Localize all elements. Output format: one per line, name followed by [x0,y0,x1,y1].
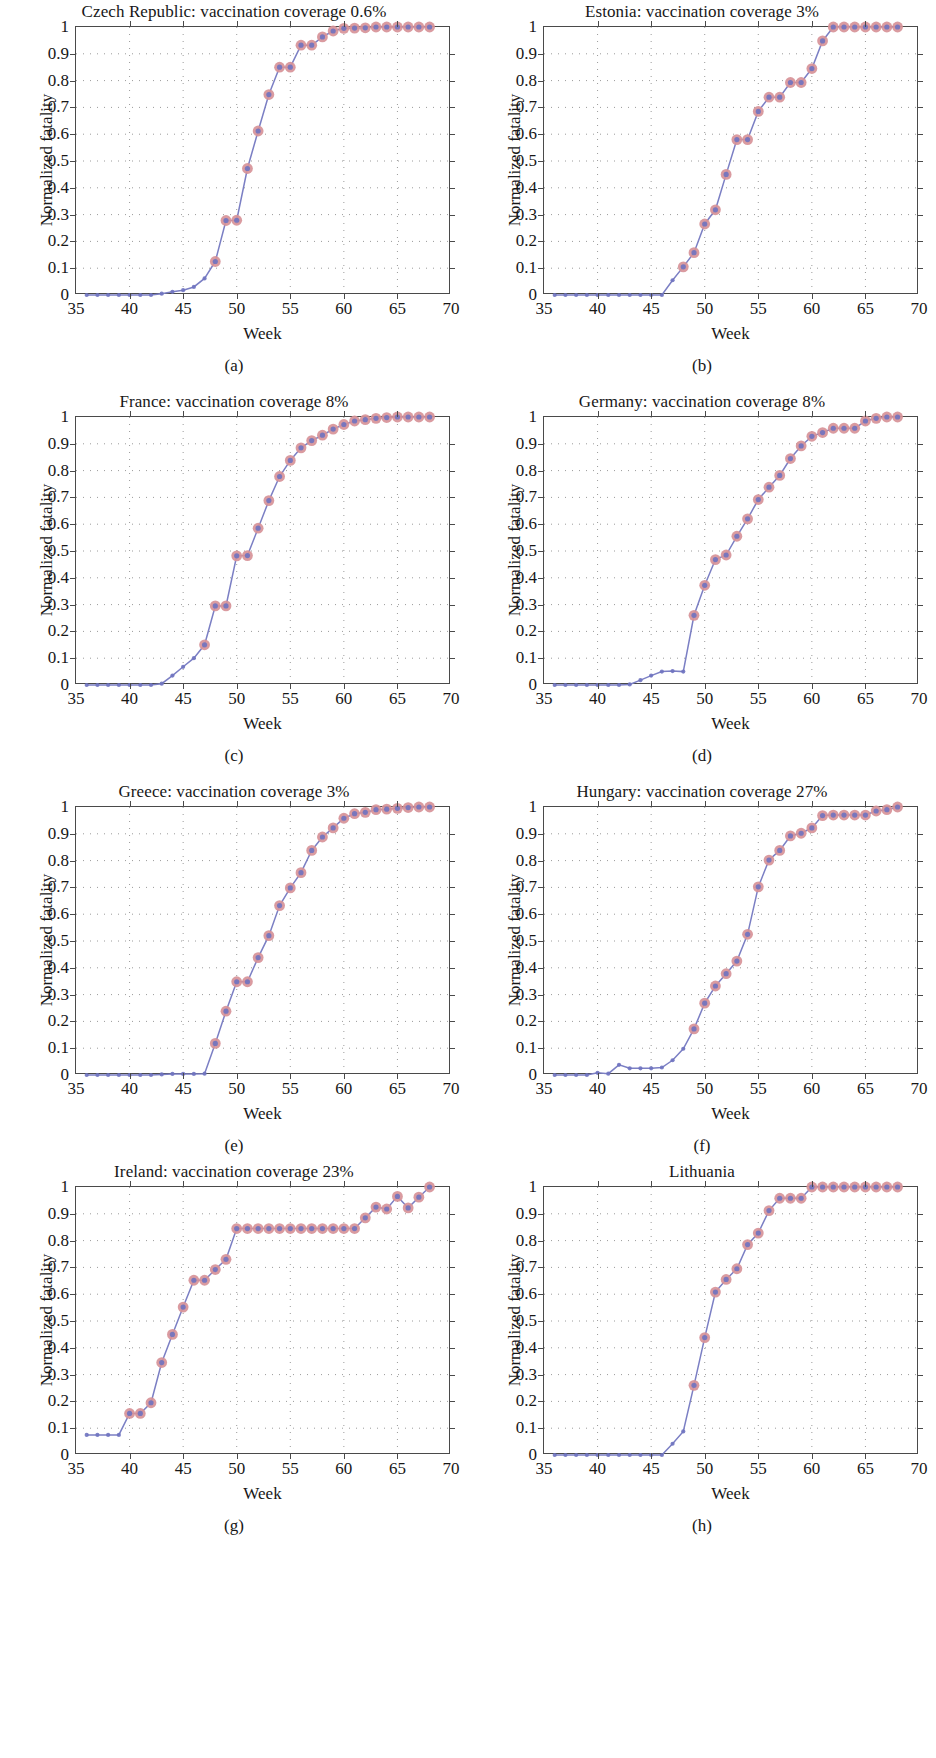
data-marker-dot [585,1073,589,1077]
y-axis-tick-label: 1 [61,407,70,427]
data-marker-dot [574,1453,578,1457]
x-axis-tick-mark-top [758,411,759,417]
data-marker-dot [831,812,836,817]
y-axis-tick-mark [70,1021,76,1022]
data-marker-dot [681,264,686,269]
x-axis-tick-mark-top [130,1181,131,1187]
y-axis-tick-mark [538,1375,544,1376]
y-axis-tick-label: 0.4 [516,178,537,198]
data-marker-dot [266,498,271,503]
y-axis-tick-mark-right [917,1348,923,1349]
y-axis-tick-mark-right [917,215,923,216]
y-axis-tick-mark-right [917,968,923,969]
data-marker-dot [298,1226,303,1231]
data-marker-dot [170,1332,175,1337]
data-marker-dot [341,422,346,427]
y-axis-tick-mark [538,1401,544,1402]
data-marker-dot [160,292,164,296]
y-axis-tick-label: 0.2 [48,231,69,251]
y-axis-tick-mark [538,834,544,835]
x-axis-tick-mark [130,1453,131,1459]
y-axis-tick-mark-right [917,1428,923,1429]
x-axis-tick-mark-top [598,21,599,27]
data-marker-dot [895,1184,900,1189]
data-marker-dot [416,804,421,809]
data-marker-dot [202,1072,206,1076]
x-axis-tick-mark [397,293,398,299]
y-axis-tick-mark [70,861,76,862]
y-axis-tick-label: 0.1 [516,648,537,668]
x-axis-tick-label: 50 [228,1459,245,1479]
data-marker-dot [352,418,357,423]
x-axis-tick-mark-top [130,21,131,27]
data-marker-dot [320,834,325,839]
y-axis-tick-mark [70,1267,76,1268]
y-axis-tick-mark-right [917,1294,923,1295]
data-marker-dot [756,109,761,114]
data-marker-dot [331,825,336,830]
data-marker-dot [223,603,228,608]
data-marker-dot [288,885,293,890]
data-marker-dot [799,443,804,448]
data-marker-dot [149,683,153,687]
y-axis-tick-mark [538,1021,544,1022]
y-axis-tick-label: 0.4 [516,1338,537,1358]
x-axis-tick-label: 55 [282,689,299,709]
y-axis-tick-label: 0.5 [48,541,69,561]
x-axis-tick-mark-top [290,1181,291,1187]
y-axis-tick-mark-right [917,914,923,915]
x-axis-tick-mark-top [812,801,813,807]
data-marker-dot [756,884,761,889]
x-axis-tick-label: 70 [911,1459,928,1479]
y-axis-tick-mark-right [917,1375,923,1376]
data-marker-dot [95,293,99,297]
y-axis-tick-label: 0.8 [516,1231,537,1251]
data-marker-dot [841,426,846,431]
x-axis-tick-mark [705,683,706,689]
y-axis-label-wrap: Normalized fatality [18,26,42,294]
x-axis-tick-mark [397,1453,398,1459]
x-axis-tick-label: 50 [696,689,713,709]
y-axis-tick-label: 0.4 [48,568,69,588]
data-marker-dot [638,293,642,297]
x-axis-tick-mark [237,1073,238,1079]
y-axis-tick-mark [538,188,544,189]
x-axis-tick-label: 70 [443,1079,460,1099]
y-axis-tick-mark-right [917,995,923,996]
y-axis-tick-label: 0.8 [516,71,537,91]
y-axis-tick-label: 0.8 [516,461,537,481]
data-marker-dot [427,414,432,419]
y-axis-tick-mark-right [449,995,455,996]
data-marker-dot [245,553,250,558]
data-marker-dot [649,1066,653,1070]
data-marker-dot [831,24,836,29]
subplot-caption: (f) [468,1136,936,1156]
data-marker-dot [831,426,836,431]
x-axis-tick-mark-top [344,411,345,417]
y-axis-tick-mark [70,1048,76,1049]
data-marker-dot [809,66,814,71]
data-marker-dot [724,1277,729,1282]
y-axis-tick-mark-right [917,188,923,189]
data-marker-dot [160,682,164,686]
chart-panel-g: Ireland: vaccination coverage 23%00.10.2… [0,1160,468,1758]
x-axis-tick-label: 60 [803,1459,820,1479]
y-axis-tick-mark-right [917,54,923,55]
chart-title: Hungary: vaccination coverage 27% [468,782,936,802]
y-axis-tick-mark [538,861,544,862]
data-marker-dot [106,1433,110,1437]
data-marker-dot [660,1065,664,1069]
data-marker-dot [777,473,782,478]
y-axis-tick-mark [538,81,544,82]
y-axis-tick-mark [70,968,76,969]
data-marker-dot [127,1411,132,1416]
data-marker-dot [713,207,718,212]
data-marker-dot [256,526,261,531]
x-axis-tick-label: 40 [121,689,138,709]
x-axis-tick-label: 60 [335,689,352,709]
data-marker-dot [628,293,632,297]
x-axis-tick-mark-top [183,21,184,27]
data-marker-dot [660,293,664,297]
x-axis-tick-label: 45 [643,1459,660,1479]
data-marker-dot [713,557,718,562]
